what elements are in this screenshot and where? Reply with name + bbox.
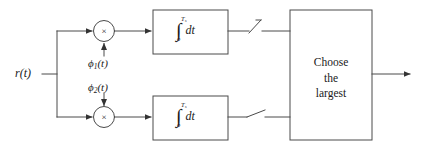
integral-bottom-lower-limit: o [177, 122, 180, 127]
integrator-bottom-expression: ∫ Ts o dt [176, 108, 195, 124]
integral-top-upper-limit: Ts [181, 16, 187, 23]
integral-top-differential: dt [185, 23, 194, 37]
integral-bottom-upper-limit: Ts [181, 102, 187, 109]
decision-line-1: Choose [290, 55, 372, 71]
basis-function-2-label: ϕ2(t) [88, 82, 108, 94]
decision-line-3: largest [290, 86, 372, 102]
basis-function-1-label: ϕ1(t) [88, 58, 108, 70]
integral-top-lower-limit: o [177, 36, 180, 41]
decision-box-label: Choose the largest [290, 55, 372, 102]
phi-2-arg: (t) [97, 81, 107, 93]
correlator-receiver-diagram: r(t) × × ϕ1(t) ϕ2(t) ∫ Ts o dt ∫ Ts o dt… [0, 0, 424, 147]
phi-1-arg: (t) [97, 57, 107, 69]
multiply-icon-bottom: × [99, 113, 109, 122]
integral-bottom-differential: dt [185, 109, 194, 123]
switch-bottom-blade [247, 110, 265, 117]
integral-icon-bottom: ∫ Ts o [176, 108, 181, 124]
switch-top-blade [249, 20, 261, 33]
multiply-icon-top: × [99, 27, 109, 36]
decision-line-2: the [290, 71, 372, 87]
integrator-top-expression: ∫ Ts o dt [176, 22, 195, 38]
integral-icon-top: ∫ Ts o [176, 22, 181, 38]
input-signal-label: r(t) [15, 67, 31, 79]
